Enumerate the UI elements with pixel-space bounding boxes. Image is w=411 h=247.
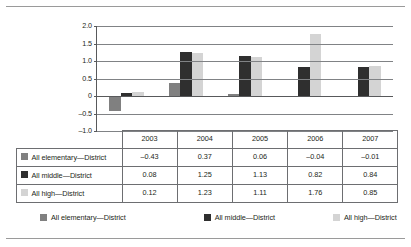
y-axis-tick (94, 114, 98, 115)
y-axis-tick-label: 0.5 (82, 75, 92, 82)
legend-label: All middle—District (215, 213, 275, 222)
table-row-header: All elementary—District (17, 149, 123, 167)
table-row-label: All high—District (32, 189, 85, 198)
chart-plot-area: 2.01.51.00.50–0.5–1.0 (96, 26, 392, 131)
y-axis-tick (94, 79, 98, 80)
table-cell: 0.06 (232, 149, 287, 167)
table-row-header: All high—District (17, 185, 123, 203)
bar (251, 57, 263, 96)
chart-legend: All elementary—DistrictAll middle—Distri… (16, 208, 392, 226)
y-axis-tick (94, 26, 98, 27)
table-cell: 1.11 (232, 185, 287, 203)
legend-item: All middle—District (204, 213, 275, 222)
gridline (97, 61, 393, 62)
table-header-row: 20032004200520062007 (17, 131, 398, 149)
table-cell: –0.01 (343, 149, 398, 167)
bar (192, 53, 204, 96)
table-cell: 0.12 (122, 185, 177, 203)
bar (109, 96, 121, 111)
legend-label: All elementary—District (51, 213, 126, 222)
bar (180, 52, 192, 96)
table-cell: 1.13 (232, 167, 287, 185)
bar (169, 83, 181, 96)
y-axis-tick-label: 2.0 (82, 22, 92, 29)
table-corner-cell (17, 131, 123, 149)
bar (239, 56, 251, 96)
bar (369, 66, 381, 96)
figure-top-rule (6, 6, 405, 7)
table-cell: –0.43 (122, 149, 177, 167)
figure-bottom-rule (6, 238, 405, 239)
table-row: All middle—District0.081.251.130.820.84 (17, 167, 398, 185)
table-cell: 0.84 (343, 167, 398, 185)
gridline (97, 26, 393, 27)
series-swatch-icon (21, 171, 28, 178)
plot-canvas (96, 26, 393, 131)
table-column-header: 2004 (177, 131, 232, 149)
y-axis-tick-label: 0 (88, 92, 92, 99)
figure-container: 2.01.51.00.50–0.5–1.0 200320042005200620… (0, 0, 411, 247)
table-column-header: 2005 (232, 131, 287, 149)
legend-swatch-icon (40, 214, 47, 221)
table-cell: 1.76 (288, 185, 343, 203)
table-row-label: All elementary—District (32, 153, 107, 162)
table-cell: 0.37 (177, 149, 232, 167)
table-row: All elementary—District–0.430.370.06–0.0… (17, 149, 398, 167)
gridline (97, 44, 393, 45)
y-axis-tick (94, 44, 98, 45)
y-axis-labels: 2.01.51.00.50–0.5–1.0 (62, 26, 92, 131)
legend-swatch-icon (204, 214, 211, 221)
table-row: All high—District0.121.231.111.760.85 (17, 185, 398, 203)
table-cell: 1.23 (177, 185, 232, 203)
y-axis-tick (94, 61, 98, 62)
table-cell: 0.85 (343, 185, 398, 203)
table-row-label: All middle—District (32, 171, 92, 180)
table-column-header: 2007 (343, 131, 398, 149)
table-cell: 0.08 (122, 167, 177, 185)
legend-item: All high—District (333, 213, 397, 222)
series-swatch-icon (21, 153, 28, 160)
y-axis-tick-label: –0.5 (78, 110, 92, 117)
gridline (97, 79, 393, 80)
legend-swatch-icon (333, 214, 340, 221)
y-axis-tick (94, 96, 98, 97)
table-cell: –0.04 (288, 149, 343, 167)
bar (358, 67, 370, 96)
data-table: 20032004200520062007All elementary—Distr… (16, 130, 398, 203)
legend-label: All high—District (344, 213, 397, 222)
table-column-header: 2003 (122, 131, 177, 149)
zero-axis-line (97, 96, 393, 97)
table-row-header: All middle—District (17, 167, 123, 185)
y-axis-tick-label: 1.5 (82, 40, 92, 47)
gridline (97, 114, 393, 115)
table-cell: 1.25 (177, 167, 232, 185)
table-column-header: 2006 (288, 131, 343, 149)
bar (298, 67, 310, 96)
table-cell: 0.82 (288, 167, 343, 185)
y-axis-tick-label: 1.0 (82, 57, 92, 64)
series-swatch-icon (21, 189, 28, 196)
data-table-body: 20032004200520062007All elementary—Distr… (17, 131, 398, 203)
legend-item: All elementary—District (40, 213, 126, 222)
